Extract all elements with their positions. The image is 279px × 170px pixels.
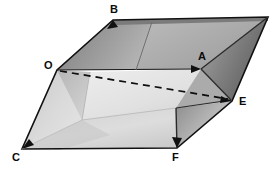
- vertex-label-F: F: [172, 152, 179, 163]
- vertex-label-E: E: [239, 96, 246, 107]
- vertex-label-C: C: [12, 152, 20, 163]
- vertex-label-O: O: [44, 60, 53, 71]
- vertex-label-A: A: [198, 51, 206, 62]
- vertex-label-B: B: [110, 4, 118, 15]
- figure-canvas: [0, 0, 279, 170]
- geometry-figure: B O A E C F: [0, 0, 279, 170]
